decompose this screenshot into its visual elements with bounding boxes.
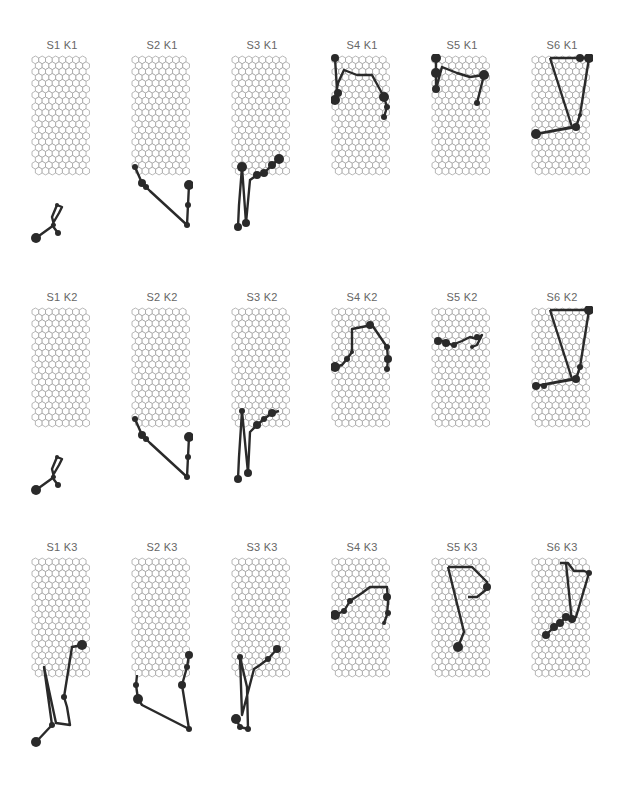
panel-title: S2 K2	[131, 291, 193, 303]
hex-grid	[531, 306, 593, 500]
trajectory-node	[577, 364, 583, 370]
trajectory-node	[384, 366, 390, 372]
hex-grid	[331, 306, 393, 500]
trajectory-node	[268, 409, 276, 417]
trajectory-node	[556, 619, 564, 627]
trajectory-node	[237, 724, 243, 730]
trajectory-node	[31, 737, 41, 747]
trajectory-node	[261, 416, 267, 422]
panel-title: S3 K1	[231, 39, 293, 51]
hex-grid	[431, 306, 493, 500]
trajectory-node	[55, 203, 59, 207]
panel-title: S4 K2	[331, 291, 393, 303]
trajectory-node	[143, 184, 149, 190]
trajectory-node	[185, 651, 193, 659]
trajectory-node	[576, 54, 584, 62]
hex-grid	[131, 54, 193, 248]
hex-grid	[331, 556, 393, 750]
trajectory-node	[184, 474, 190, 480]
trajectory-node	[231, 714, 241, 724]
trajectory-node	[268, 161, 276, 169]
panel-title: S5 K1	[431, 39, 493, 51]
trajectory-node	[273, 645, 281, 653]
trajectory-node	[381, 114, 387, 120]
trajectory-node	[52, 223, 56, 227]
hex-grid	[31, 306, 93, 500]
trajectory-node	[453, 642, 463, 652]
hex-grid	[131, 556, 193, 750]
trajectory-node	[366, 321, 374, 329]
trajectory-node	[384, 344, 390, 350]
hex-grid	[331, 54, 393, 248]
trajectory-node	[586, 570, 592, 576]
trajectory-node	[265, 656, 271, 662]
trajectory-line	[135, 419, 189, 477]
trajectory-node	[132, 164, 138, 170]
trajectory-node	[31, 485, 41, 495]
trajectory-node	[185, 202, 191, 208]
hex-grid	[231, 306, 293, 500]
panel-title: S2 K3	[131, 541, 193, 553]
panel-title: S5 K2	[431, 291, 493, 303]
trajectory-node	[432, 85, 440, 93]
trajectory-node	[434, 337, 442, 345]
trajectory-node	[431, 68, 441, 78]
trajectory-node	[483, 583, 491, 591]
trajectory-node	[379, 92, 389, 102]
hex-grid	[231, 54, 293, 248]
trajectory-node	[245, 726, 251, 732]
panel-title: S3 K2	[231, 291, 293, 303]
panel-title: S3 K3	[231, 541, 293, 553]
trajectory-node	[274, 154, 284, 164]
trajectory-node	[470, 345, 474, 349]
trajectory-node	[331, 54, 339, 62]
trajectory-node	[334, 89, 342, 97]
trajectory-node	[384, 104, 390, 110]
panel-title: S1 K1	[31, 39, 93, 51]
trajectory-node	[31, 233, 41, 243]
trajectory-node	[382, 621, 386, 625]
trajectory-node	[532, 382, 540, 390]
trajectory-node	[260, 169, 268, 177]
trajectory-node	[474, 100, 480, 106]
trajectory-node	[384, 355, 392, 363]
trajectory-node	[237, 162, 247, 172]
panel-title: S6 K3	[531, 541, 593, 553]
trajectory-node	[578, 113, 582, 117]
trajectory-node	[184, 222, 190, 228]
trajectory-node	[52, 475, 56, 479]
trajectory-node	[479, 70, 489, 80]
trajectory-node	[242, 219, 250, 227]
trajectory-node	[234, 223, 242, 231]
trajectory-node	[185, 454, 191, 460]
panel-title: S6 K2	[531, 291, 593, 303]
trajectory-node	[49, 722, 55, 728]
trajectory-node	[133, 694, 143, 704]
hex-grid	[431, 54, 493, 248]
trajectory-node	[347, 598, 353, 604]
trajectory-node	[385, 610, 391, 616]
trajectory-node	[184, 180, 193, 190]
trajectory-node	[184, 432, 193, 442]
trajectory-node	[442, 339, 450, 347]
trajectory-node	[568, 615, 576, 623]
trajectory-node	[350, 350, 354, 354]
trajectory-node	[253, 421, 261, 429]
trajectory-node	[143, 436, 149, 442]
trajectory-node	[55, 482, 61, 488]
trajectory-node	[184, 664, 190, 670]
trajectory-node	[234, 475, 242, 483]
panel-title: S2 K1	[131, 39, 193, 51]
trajectory-node	[572, 123, 580, 131]
trajectory-node	[474, 334, 480, 340]
trajectory-node	[239, 408, 245, 414]
trajectory-node	[132, 416, 138, 422]
panel-title: S4 K1	[331, 39, 393, 51]
trajectory-node	[244, 469, 252, 477]
trajectory-node	[572, 375, 580, 383]
hex-grid	[231, 556, 293, 750]
hex-grid	[131, 306, 193, 500]
trajectory-node	[55, 455, 59, 459]
trajectory-node	[133, 682, 139, 688]
trajectory-node	[541, 383, 547, 389]
